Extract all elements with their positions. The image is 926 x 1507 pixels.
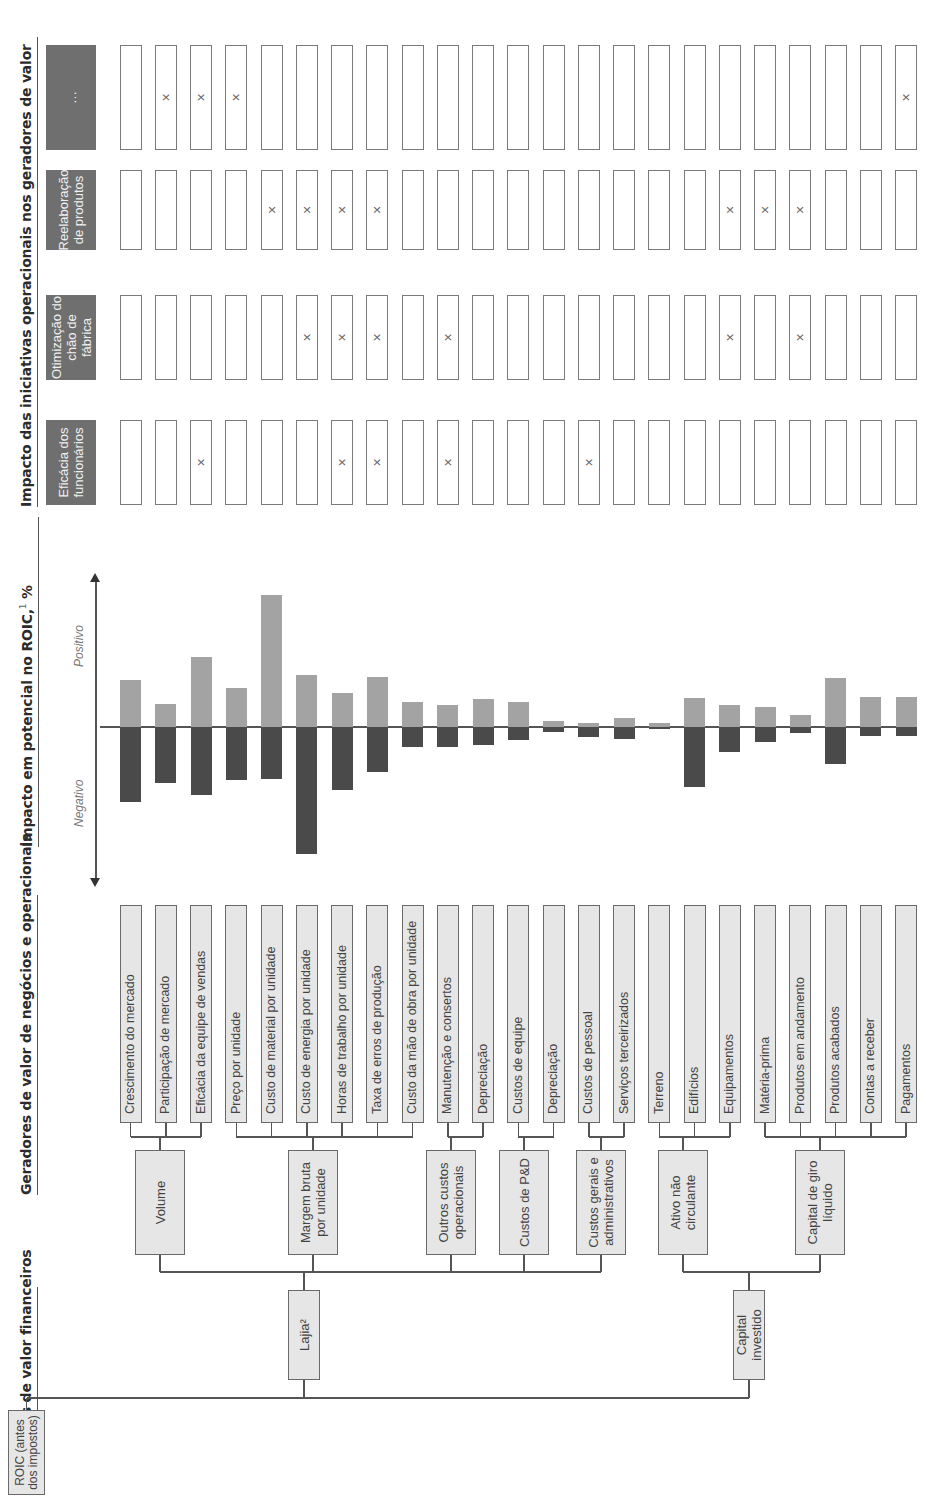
x-mark-icon: × — [369, 206, 385, 214]
initiative-more-header: … — [46, 45, 96, 150]
grid-cell: × — [789, 295, 811, 380]
grid-cell: × — [366, 295, 388, 380]
grid-cell — [120, 295, 142, 380]
connector — [165, 1123, 167, 1137]
grid-cell: × — [190, 45, 212, 150]
grid-cell — [155, 170, 177, 250]
bar-negative — [120, 727, 141, 802]
connector — [683, 1271, 820, 1273]
driver-box: Manutenção e consertos — [437, 905, 459, 1123]
bar-negative — [332, 727, 353, 790]
grid-cell — [120, 45, 142, 150]
bar-positive — [719, 705, 740, 727]
bar-negative — [614, 727, 635, 739]
connector — [303, 1380, 305, 1398]
grid-cell — [860, 45, 882, 150]
driver-box: Produtos acabados — [825, 905, 847, 1123]
connector — [659, 1123, 661, 1137]
x-mark-icon: × — [440, 458, 456, 466]
bar-positive — [402, 702, 423, 727]
grid-cell — [543, 420, 565, 505]
connector — [159, 1255, 161, 1272]
x-mark-icon: × — [299, 333, 315, 341]
bar-positive — [860, 697, 881, 727]
initiative-otimizacao-header: Otimização do chão de fábrica — [46, 295, 96, 380]
grid-cell — [895, 170, 917, 250]
grid-cell — [190, 295, 212, 380]
x-mark-icon: × — [722, 206, 738, 214]
driver-box: Equipamentos — [719, 905, 741, 1123]
connector — [682, 1255, 684, 1272]
label-negativo: Negativo — [72, 780, 86, 827]
connector — [448, 1136, 483, 1138]
driver-box: Depreciação — [543, 905, 565, 1123]
bar-negative — [508, 727, 529, 740]
grid-cell: × — [754, 170, 776, 250]
bar-positive — [367, 677, 388, 727]
bar-positive — [261, 595, 282, 727]
grid-cell: × — [789, 170, 811, 250]
header-business-drivers: Geradores de valor de negócios e operaci… — [18, 895, 38, 1195]
grid-cell — [860, 170, 882, 250]
grid-cell: × — [225, 45, 247, 150]
grid-cell: × — [437, 420, 459, 505]
bar-negative — [684, 727, 705, 787]
connector — [800, 1123, 802, 1137]
connector — [303, 1272, 305, 1290]
connector — [600, 1255, 602, 1272]
volume-box: Volume — [135, 1150, 185, 1255]
driver-box: Horas de trabalho por unidade — [331, 905, 353, 1123]
bar-negative — [860, 727, 881, 736]
bar-negative — [649, 727, 670, 729]
driver-box: Pagamentos — [895, 905, 917, 1123]
connector — [312, 1137, 314, 1150]
grid-cell — [155, 420, 177, 505]
grid-cell — [543, 45, 565, 150]
x-mark-icon: × — [158, 93, 174, 101]
x-mark-icon: × — [193, 93, 209, 101]
grid-cell: × — [296, 170, 318, 250]
connector — [682, 1137, 684, 1150]
x-mark-icon: × — [334, 458, 350, 466]
driver-box: Terreno — [648, 905, 670, 1123]
grid-cell — [402, 420, 424, 505]
value-driver-diagram: Geradores de valor financeiros Geradores… — [0, 0, 926, 1507]
bar-positive — [825, 678, 846, 727]
connector — [450, 1255, 452, 1272]
connector — [694, 1123, 696, 1137]
driver-box: Preço por unidade — [225, 905, 247, 1123]
connector — [160, 1271, 601, 1273]
grid-cell — [754, 45, 776, 150]
grid-cell — [825, 295, 847, 380]
grid-cell — [825, 170, 847, 250]
grid-cell — [543, 295, 565, 380]
grid-cell — [578, 45, 600, 150]
bar-positive — [120, 680, 141, 727]
grid-cell — [261, 295, 283, 380]
bar-positive — [155, 704, 176, 727]
driver-box: Edifícios — [684, 905, 706, 1123]
connector — [764, 1123, 766, 1137]
grid-cell — [825, 45, 847, 150]
driver-box: Custo de energia por unidade — [296, 905, 318, 1123]
initiative-reelaboracao-header: Reelaboração de produtos — [46, 170, 96, 250]
custos-gerais-box: Custos gerais e administrativos — [576, 1150, 626, 1255]
grid-cell — [895, 420, 917, 505]
grid-cell: × — [895, 45, 917, 150]
grid-cell — [472, 420, 494, 505]
driver-box: Taxa de erros de produção — [366, 905, 388, 1123]
connector — [553, 1123, 555, 1137]
lajia-box: Lajia² — [288, 1290, 320, 1380]
grid-cell — [225, 295, 247, 380]
connector — [870, 1123, 872, 1137]
grid-cell — [719, 420, 741, 505]
footnote-marker: 1 — [18, 604, 28, 610]
grid-cell — [190, 170, 212, 250]
grid-cell: × — [331, 295, 353, 380]
grid-cell — [613, 170, 635, 250]
x-mark-icon: × — [898, 93, 914, 101]
bar-negative — [825, 727, 846, 764]
grid-cell — [437, 170, 459, 250]
grid-cell — [648, 170, 670, 250]
connector — [748, 1272, 750, 1290]
